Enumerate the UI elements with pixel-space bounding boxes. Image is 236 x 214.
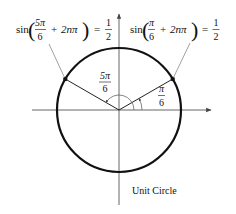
point-5pi-6 — [63, 77, 67, 81]
angle-arc-pi-6 — [139, 99, 142, 111]
rhs-numerator: 1 — [214, 17, 219, 28]
term-2npi: 2nπ — [61, 23, 78, 35]
rhs-denominator: 2 — [106, 31, 111, 42]
frac-numerator: π — [149, 17, 155, 28]
figure-caption: Unit Circle — [132, 185, 177, 196]
plus-sign: + — [160, 23, 166, 35]
angle-label-denominator: 6 — [159, 97, 164, 108]
angle-label-numerator: π — [159, 83, 165, 94]
point-pi-6 — [171, 77, 175, 81]
leader-line-left — [49, 44, 65, 78]
unit-circle-diagram: sin ( 5π 6 + 2nπ ) = 1 2 sin ( π 6 + 2nπ… — [0, 0, 236, 214]
leader-line-right — [174, 43, 191, 78]
angle-label-denominator: 6 — [103, 83, 108, 94]
equation-pi-6: sin ( π 6 + 2nπ ) = 1 2 — [130, 17, 220, 42]
frac-denominator: 6 — [149, 31, 154, 42]
equals-sign: = — [202, 23, 208, 35]
angle-label-pi-6: π 6 — [158, 83, 165, 108]
radius-5pi-6 — [65, 79, 119, 110]
rhs-denominator: 2 — [214, 31, 219, 42]
close-paren: ) — [191, 17, 198, 42]
term-2npi: 2nπ — [170, 23, 187, 35]
frac-denominator: 6 — [38, 31, 43, 42]
angle-label-5pi-6: 5π 6 — [99, 70, 111, 94]
equation-5pi-6: sin ( 5π 6 + 2nπ ) = 1 2 — [16, 17, 112, 42]
frac-numerator: 5π — [35, 17, 46, 28]
rhs-numerator: 1 — [106, 17, 111, 28]
angle-arc-5pi-6 — [106, 95, 134, 110]
radius-pi-6 — [119, 79, 173, 110]
equals-sign: = — [94, 23, 100, 35]
close-paren: ) — [82, 17, 89, 42]
angle-label-numerator: 5π — [100, 70, 111, 81]
plus-sign: + — [51, 23, 57, 35]
